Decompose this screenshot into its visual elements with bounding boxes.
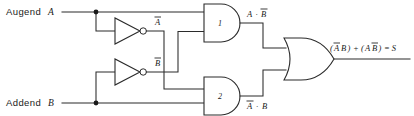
- not-gate-triangle-b: [115, 59, 140, 85]
- and-gate-2-number: 2: [218, 92, 222, 101]
- out-paren-close-1: ): [347, 43, 351, 53]
- not-gate-bubble-b: [140, 69, 146, 75]
- out-term1-b: B: [341, 43, 346, 53]
- input-label-addend: Addend: [6, 97, 41, 108]
- signal-label-a-bar: A: [154, 17, 161, 27]
- and1-out-a: A: [246, 9, 253, 19]
- or-gate-body: [284, 38, 334, 80]
- out-plus-sign: +: [353, 43, 359, 53]
- out-equals-s: = S: [384, 43, 397, 53]
- and2-out-a: A: [246, 101, 253, 111]
- signal-label-and2-out: A · B: [246, 101, 267, 111]
- logic-diagram-canvas: 1 2 Augend A Addend B A: [0, 0, 414, 116]
- and-gate-1: 1: [204, 4, 240, 42]
- out-paren-close-2: ): [378, 43, 382, 53]
- signal-label-and1-out: A · B: [246, 9, 268, 19]
- input-label-augend: Augend: [6, 6, 41, 17]
- input-signal-a: A: [47, 7, 54, 17]
- inverter-b: [115, 59, 146, 85]
- signal-label-a-bar-text: A: [154, 17, 161, 27]
- and2-out-b: B: [262, 101, 267, 111]
- wire-and2-to-or: [240, 70, 286, 96]
- out-term1-a: A: [333, 43, 340, 53]
- not-gate-bubble-a: [140, 28, 146, 34]
- wire-and2-out: [240, 70, 286, 96]
- wire-and1-to-or: [240, 23, 286, 48]
- and2-out-dot: ·: [256, 101, 258, 111]
- output-expression: ( A B ) + ( A B ) = S: [330, 43, 397, 53]
- not-gate-triangle-a: [115, 18, 140, 44]
- wire-a-to-inverter: [96, 12, 115, 31]
- or-gate: [284, 38, 334, 80]
- and-gate-2: 2: [204, 77, 240, 115]
- junction-b: [94, 101, 99, 106]
- wire-b-to-inverter: [96, 72, 115, 103]
- signal-label-b-bar-text: B: [155, 58, 160, 68]
- out-term2-a: A: [364, 43, 371, 53]
- and1-out-dot: ·: [256, 9, 258, 19]
- input-signal-b: B: [48, 98, 54, 108]
- signal-label-b-bar: B: [155, 58, 162, 68]
- circuit-schematic: 1 2 Augend A Addend B A: [0, 0, 414, 116]
- inverter-a: [115, 18, 146, 44]
- and1-out-b: B: [261, 9, 266, 19]
- wire-and1-out: [240, 23, 286, 48]
- and-gate-1-number: 1: [218, 19, 222, 28]
- and-gate-2-body: [204, 77, 240, 115]
- junction-a: [94, 10, 99, 15]
- out-term2-b: B: [372, 43, 377, 53]
